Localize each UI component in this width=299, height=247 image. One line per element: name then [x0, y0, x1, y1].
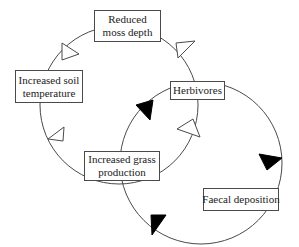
node-label-line2: moss depth	[103, 26, 153, 39]
node-label-line1: Increased grass	[88, 153, 156, 166]
node-faecal-deposition: Faecal deposition	[203, 188, 279, 211]
hollow-arrow-herbivores-to-moss-icon	[176, 41, 195, 58]
hollow-arrow-moss-to-soil-icon	[62, 43, 79, 60]
filled-arrow-herbivores-to-faecal-icon	[259, 154, 282, 170]
filled-arrow-grass-to-herbivores-icon	[136, 100, 153, 120]
node-label-line1: Faecal deposition	[202, 193, 279, 206]
node-increased-soil-temperature: Increased soil temperature	[15, 70, 83, 103]
node-label-line1: Herbivores	[173, 84, 222, 97]
node-reduced-moss-depth: Reduced moss depth	[94, 10, 161, 42]
node-label-line2: production	[98, 166, 146, 179]
node-herbivores: Herbivores	[170, 81, 225, 100]
node-label-line1: Increased soil	[19, 74, 80, 87]
hollow-arrow-soil-to-grass-icon	[48, 127, 64, 141]
node-label-line1: Reduced	[108, 13, 146, 26]
node-label-line2: temperature	[23, 87, 76, 100]
node-increased-grass-production: Increased grass production	[84, 151, 160, 181]
